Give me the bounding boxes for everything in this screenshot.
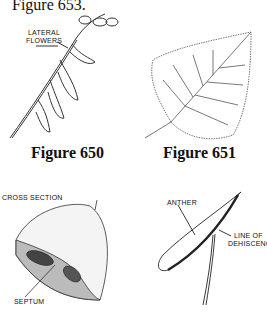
cross-section-illustration: [0, 200, 133, 310]
anther-illustration: [133, 190, 267, 313]
caption-figure-650: Figure 650: [31, 144, 104, 162]
leaf-illustration: [133, 30, 267, 150]
flower-stem-illustration: [0, 0, 133, 140]
label-septum: SEPTUM: [14, 298, 44, 306]
caption-figure-651: Figure 651: [163, 144, 236, 162]
